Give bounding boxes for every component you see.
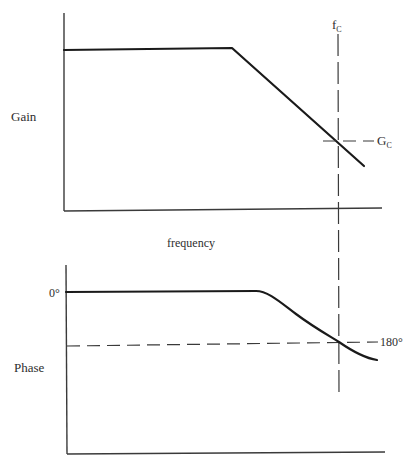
frequency-axis-label: frequency	[167, 236, 215, 250]
gain-x-axis	[64, 208, 382, 211]
phase-y-axis	[66, 265, 67, 454]
phase-180-dashed-line	[67, 342, 378, 346]
zero-degree-label: 0°	[49, 286, 60, 300]
phase-curve	[66, 291, 377, 360]
180-degree-label: 180°	[380, 335, 403, 349]
phase-plot: 0° 180° Phase	[14, 265, 403, 454]
phase-axis-label: Phase	[14, 360, 45, 375]
gain-axis-label: Gain	[11, 109, 37, 124]
bode-diagram: Gain fC GC frequency 0° 180° Phase	[0, 0, 415, 465]
gc-label: GC	[377, 133, 392, 150]
fc-label: fC	[332, 17, 342, 34]
phase-x-axis	[67, 452, 385, 454]
gain-plot: Gain fC GC	[11, 13, 392, 211]
gain-curve	[64, 48, 364, 166]
